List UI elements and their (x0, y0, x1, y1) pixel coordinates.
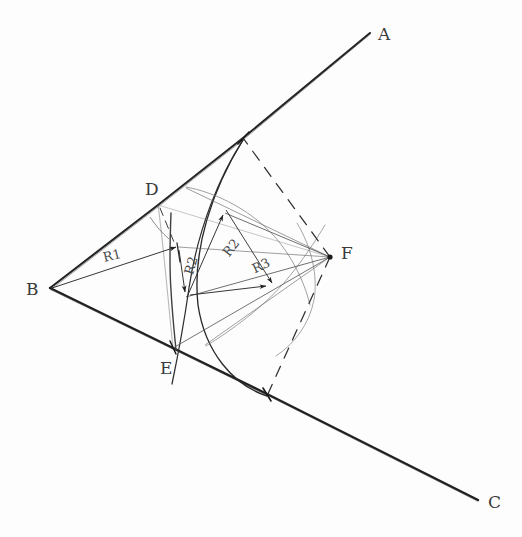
vertex-label-f: F (341, 243, 353, 263)
vertex-label-b: B (26, 279, 39, 299)
dashed-F-to-lower-tangent (267, 257, 330, 396)
vertex-label-e: E (160, 358, 173, 378)
ray-BA (50, 33, 370, 289)
vertex-label-c: C (488, 492, 502, 512)
tick-mark-upper-ray (238, 132, 249, 144)
sketch-canvas: A B C D E F R1 R2 R2 R3 (0, 0, 522, 537)
vertex-label-a: A (378, 24, 391, 44)
vertex-label-d: D (145, 179, 159, 199)
tick-mark-point-F (327, 254, 332, 259)
arc-major (172, 140, 243, 384)
